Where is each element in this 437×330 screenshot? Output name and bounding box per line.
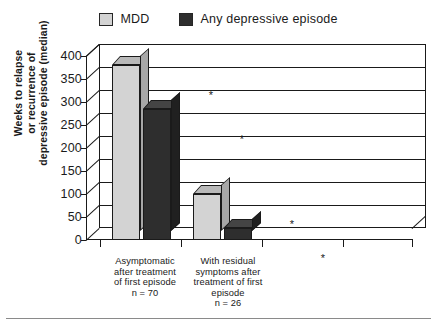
bar-side-face [171,92,180,231]
bar-face [112,65,140,240]
bar-face [193,194,221,240]
gridline-front-400 [86,44,100,57]
legend-label-mdd: MDD [120,12,149,26]
gridline-front-250 [86,113,100,126]
x-category-label-asymptomatic: Asymptomatic after treatment of first ep… [104,256,186,298]
x-category-label-residual: With residual symptoms after treatment o… [186,256,270,309]
figure-caption-clipped [6,322,431,330]
y-label-150: 150 [50,164,82,178]
gridline-front-50 [86,205,100,218]
x-tick-4 [412,240,413,247]
y-label-50: 50 [50,210,82,224]
y-label-300: 300 [50,95,82,109]
x-tick-2 [262,240,263,247]
gridline-front-350 [86,67,100,80]
legend-swatch-mdd-icon [99,13,113,26]
y-label-200: 200 [50,141,82,155]
significance-star-mdd-residual: * [286,219,298,230]
y-axis-title: Weeks to relapse or recurrence of depres… [1,0,63,188]
gridline-front-150 [86,159,100,172]
bar-mdd-residual[interactable] [193,56,221,240]
y-label-250: 250 [50,118,82,132]
y-label-350: 350 [50,72,82,86]
x-tick-0 [100,240,101,247]
caption-divider [6,318,431,319]
y-label-100: 100 [50,187,82,201]
gridline-400 [99,44,426,45]
bar-any-depressive-episode-asymptomatic[interactable] [143,56,171,240]
chart-plot-area: 400 350 300 250 200 150 100 50 0 * * [86,44,426,240]
y-label-400: 400 [50,49,82,63]
gridline-front-300 [86,90,100,103]
y-label-0: 0 [50,233,82,247]
significance-star-any-depressive-episode-residual: * [317,253,329,264]
bar-any-depressive-episode-residual[interactable] [224,56,252,240]
gridline-front-100 [86,182,100,195]
bar-face [224,228,252,240]
legend-swatch-any-depressive-episode-icon [179,13,193,26]
gridline-front-200 [86,136,100,149]
x-tick-1 [181,240,182,247]
x-tick-3 [343,240,344,247]
legend-item-any-depressive-episode: Any depressive episode [179,12,337,26]
chart-legend: MDD Any depressive episode [0,6,437,32]
bar-mdd-asymptomatic[interactable] [112,56,140,240]
legend-label-any-depressive-episode: Any depressive episode [200,12,337,26]
legend-item-mdd: MDD [99,12,149,26]
bar-face [143,109,171,240]
